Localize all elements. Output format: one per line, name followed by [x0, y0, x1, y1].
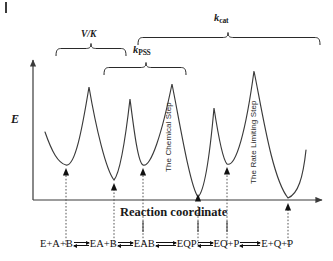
- equation-species-2: EAB: [134, 238, 155, 249]
- equilibrium-arrow-icon: [156, 240, 176, 249]
- equilibrium-arrow-icon: [198, 240, 213, 249]
- equation-species-0: E+A+B: [40, 238, 73, 249]
- step-label-chemical-step: The Chemical Step: [165, 102, 173, 172]
- energy-diagram-figure: E Reaction coordinate V/K kcat kPSS The …: [0, 0, 333, 261]
- energy-axis-label: E: [11, 113, 19, 125]
- reaction-coordinate-axis-label: Reaction coordinate: [120, 206, 227, 219]
- equation-species-3: EQP: [177, 238, 197, 249]
- bracket-label-kcat-sub: cat: [219, 16, 228, 25]
- reaction-equation: E+A+BEA+BEABEQPEQ+PE+Q+P: [0, 238, 333, 249]
- equation-species-5: E+Q+P: [261, 238, 293, 249]
- bracket-label-kpss: kPSS: [133, 45, 151, 56]
- step-label-rate-limiting-step: The Rate Limiting Step: [250, 100, 258, 184]
- bracket-label-vk: V/K: [81, 30, 96, 40]
- equation-species-4: EQ+P: [214, 238, 240, 249]
- bracket-label-kpss-sub: PSS: [138, 48, 150, 57]
- bracket-vk: [56, 44, 126, 57]
- bracket-kcat: [138, 33, 320, 46]
- bracket-kpss: [104, 63, 186, 76]
- equation-tick-marks: [143, 221, 227, 232]
- energy-profile-curve: [45, 71, 306, 198]
- bracket-label-kcat: kcat: [214, 13, 228, 24]
- equilibrium-arrow-icon: [240, 240, 260, 249]
- equation-species-1: EA+B: [90, 238, 117, 249]
- equilibrium-arrow-icon: [74, 240, 89, 249]
- equilibrium-arrow-icon: [118, 240, 133, 249]
